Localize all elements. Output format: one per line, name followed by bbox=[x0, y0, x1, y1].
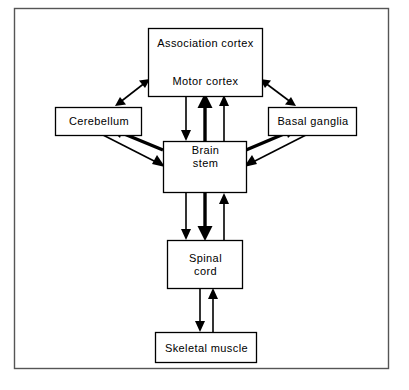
node-box-basal-ganglia[interactable] bbox=[269, 108, 357, 136]
node-box-brain-stem[interactable] bbox=[164, 142, 247, 193]
node-box-cortex[interactable] bbox=[149, 29, 263, 97]
diagram-svg bbox=[0, 0, 409, 390]
node-box-spinal-cord[interactable] bbox=[168, 241, 243, 289]
node-box-cerebellum[interactable] bbox=[56, 108, 142, 136]
node-box-skeletal-muscle[interactable] bbox=[156, 333, 257, 363]
diagram-canvas: Association cortex Motor cortex Cerebell… bbox=[0, 0, 409, 390]
